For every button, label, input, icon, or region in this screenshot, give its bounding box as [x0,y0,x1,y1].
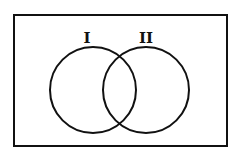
set-i-circle [50,47,136,133]
set-ii-circle [103,47,189,133]
venn-diagram: I II [0,0,238,155]
universe-rectangle [14,15,227,146]
set-ii-label: II [139,29,153,47]
set-i-label: I [83,29,90,47]
